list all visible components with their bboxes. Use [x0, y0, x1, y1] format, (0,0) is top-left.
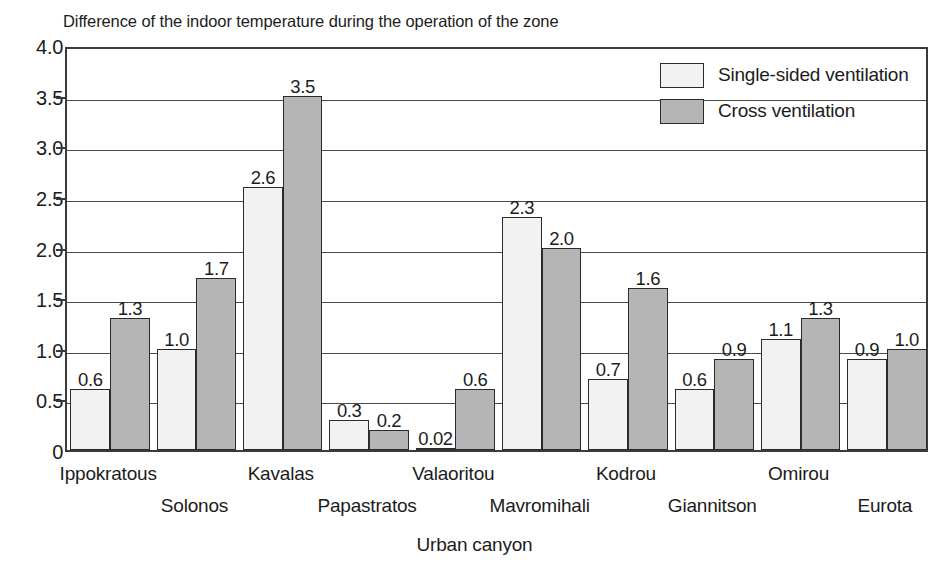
bar-value-label: 0.9: [722, 339, 747, 361]
bar: [801, 318, 841, 450]
bar: [283, 96, 323, 450]
y-tick-label: 1.0: [9, 339, 63, 362]
x-axis-title: Urban canyon: [0, 534, 949, 556]
y-axis: 00.51.01.52.02.53.03.54.0: [0, 47, 63, 452]
x-axis-category-label: Kodrou: [596, 463, 656, 485]
bar: [502, 217, 542, 450]
bar-value-label: 0.9: [855, 339, 880, 361]
x-axis-category-label: Omirou: [768, 463, 829, 485]
bar-value-label: 0.6: [682, 369, 707, 391]
y-tick-label: 2.0: [9, 238, 63, 261]
bar-value-label: 1.0: [894, 329, 919, 351]
bar-value-label: 1.3: [118, 298, 143, 320]
y-tick-label: 3.0: [9, 137, 63, 160]
bar: [714, 359, 754, 450]
bar: [70, 389, 110, 450]
chart-legend: Single-sided ventilationCross ventilatio…: [660, 57, 922, 129]
bar-value-label: 0.6: [78, 369, 103, 391]
bar-value-label: 0.02: [418, 428, 452, 450]
chart-page: Difference of the indoor temperature dur…: [0, 0, 949, 573]
bar-value-label: 1.6: [636, 268, 661, 290]
bar: [196, 278, 236, 450]
legend-label: Single-sided ventilation: [718, 64, 909, 86]
bar: [455, 389, 495, 450]
legend-item: Cross ventilation: [660, 93, 922, 129]
x-axis-category-label: Mavromihali: [490, 495, 590, 517]
y-tick-mark: [56, 350, 65, 352]
x-axis-category-label: Giannitson: [668, 495, 757, 517]
bar: [157, 349, 197, 450]
bar: [369, 430, 409, 450]
x-axis-category-label: Solonos: [161, 495, 228, 517]
bar-value-label: 0.3: [337, 400, 362, 422]
bar-value-label: 2.3: [510, 197, 535, 219]
y-tick-label: 3.5: [9, 86, 63, 109]
bar-value-label: 1.0: [164, 329, 189, 351]
bar-value-label: 1.7: [204, 258, 229, 280]
x-axis-category-label: Ippokratous: [60, 463, 157, 485]
bar-value-label: 3.5: [290, 76, 315, 98]
bar: [887, 349, 927, 450]
bar: [847, 359, 887, 450]
y-tick-mark: [56, 198, 65, 200]
y-tick-mark: [56, 97, 65, 99]
bar-value-label: 0.6: [463, 369, 488, 391]
y-tick-label: 0.5: [9, 390, 63, 413]
bar: [243, 187, 283, 450]
bar: [675, 389, 715, 450]
y-tick-label: 0: [9, 441, 63, 464]
y-tick-label: 4.0: [9, 36, 63, 59]
bar-value-label: 0.2: [377, 410, 402, 432]
bar-value-label: 0.7: [596, 359, 621, 381]
legend-label: Cross ventilation: [718, 100, 855, 122]
bar-value-label: 2.0: [549, 228, 574, 250]
bar-value-label: 1.3: [808, 298, 833, 320]
y-tick-mark: [56, 249, 65, 251]
bar: [628, 288, 668, 450]
legend-item: Single-sided ventilation: [660, 57, 922, 93]
chart-title: Difference of the indoor temperature dur…: [63, 12, 558, 31]
x-axis-category-label: Kavalas: [248, 463, 314, 485]
bar: [588, 379, 628, 450]
bar-value-label: 1.1: [768, 319, 793, 341]
legend-swatch: [660, 99, 704, 124]
bar: [329, 420, 369, 450]
x-axis-category-label: Papastratos: [317, 495, 416, 517]
y-tick-label: 2.5: [9, 187, 63, 210]
bar: [542, 248, 582, 451]
y-tick-mark: [56, 147, 65, 149]
y-tick-mark: [56, 400, 65, 402]
legend-swatch: [660, 63, 704, 88]
x-axis-category-label: Eurota: [857, 495, 912, 517]
y-tick-mark: [56, 299, 65, 301]
bar: [110, 318, 150, 450]
x-axis-category-label: Valaoritou: [412, 463, 494, 485]
bar-value-label: 2.6: [251, 167, 276, 189]
bar: [761, 339, 801, 450]
y-tick-label: 1.5: [9, 289, 63, 312]
